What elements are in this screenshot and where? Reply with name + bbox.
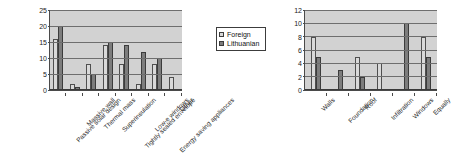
bar-chart-components: 024681012 WallsFoundationRoofInfiltratio… (290, 0, 451, 166)
x-axis-line-left (50, 89, 182, 90)
legend-label-foreign: Foreign (227, 31, 251, 38)
plot-area-right (304, 10, 437, 91)
gridline (305, 76, 437, 77)
x-tick-mark (82, 93, 83, 96)
gridline (305, 63, 437, 64)
legend-label-lithuanian: Lithuanian (227, 40, 259, 47)
legend-item-foreign: Foreign (219, 30, 262, 39)
bar-group (149, 10, 166, 90)
x-axis-labels-left: Passive solar designMassive wallThermal … (49, 93, 182, 166)
x-axis-label: Windows (412, 97, 435, 120)
y-tick-label: 12 (294, 7, 302, 14)
x-tick-mark (65, 93, 66, 96)
legend-swatch-foreign-icon (219, 32, 224, 37)
bar-group (166, 10, 183, 90)
y-tick-label: 0 (298, 87, 302, 94)
bar-group (50, 10, 67, 90)
gridline (50, 26, 182, 27)
x-axis-line-right (305, 89, 437, 90)
x-tick-mark (164, 93, 165, 96)
y-axis-left: 0510152025 (28, 10, 47, 91)
x-tick-mark (414, 93, 415, 96)
x-axis-label: Equally (432, 97, 451, 117)
bar-chart-measures: 0510152025 Passive solar designMassive w… (0, 0, 250, 166)
gridline (305, 50, 437, 51)
x-tick-mark (115, 93, 116, 96)
x-tick-mark (348, 93, 349, 96)
bar-lithuanian (360, 77, 365, 90)
plot-area-left (49, 10, 182, 91)
y-tick-label: 15 (39, 39, 47, 46)
bar-lithuanian (404, 23, 409, 90)
x-tick-mark (98, 93, 99, 96)
gridline (50, 58, 182, 59)
y-tick-label: 20 (39, 23, 47, 30)
x-tick-mark (148, 93, 149, 96)
chart-legend: Foreign Lithuanian (216, 27, 266, 51)
y-tick-label: 10 (294, 20, 302, 27)
bar-lithuanian (338, 70, 343, 90)
gridline (305, 10, 437, 11)
y-tick-label: 8 (298, 33, 302, 40)
bar-lithuanian (316, 57, 321, 90)
bar-group (83, 10, 100, 90)
gridline (50, 42, 182, 43)
legend-item-lithuanian: Lithuanian (219, 39, 262, 48)
x-tick-mark (436, 93, 437, 96)
bar-group (100, 10, 117, 90)
two-chart-figure: 0510152025 Passive solar designMassive w… (0, 0, 451, 166)
bar-lithuanian (124, 45, 129, 90)
x-axis-label: Walls (321, 97, 337, 113)
gridline (50, 74, 182, 75)
x-tick-mark (131, 93, 132, 96)
bar-lithuanian (426, 57, 431, 90)
gridline (50, 10, 182, 11)
bar-lithuanian (91, 74, 96, 90)
x-tick-mark (370, 93, 371, 96)
bar-group (116, 10, 133, 90)
y-tick-label: 5 (43, 71, 47, 78)
x-tick-mark (181, 93, 182, 96)
bar-groups-left (50, 10, 182, 90)
x-axis-label: Infiltration (390, 97, 415, 122)
x-axis-labels-right: WallsFoundationRoofInfiltrationWindowsEq… (304, 93, 437, 166)
y-tick-label: 10 (39, 55, 47, 62)
x-tick-mark (392, 93, 393, 96)
gridline (305, 23, 437, 24)
bar-lithuanian (108, 42, 113, 90)
x-tick-mark (326, 93, 327, 96)
legend-swatch-lithuanian-icon (219, 41, 224, 46)
y-tick-label: 4 (298, 60, 302, 67)
y-tick-label: 2 (298, 73, 302, 80)
gridline (305, 36, 437, 37)
y-tick-label: 0 (43, 87, 47, 94)
y-tick-label: 25 (39, 7, 47, 14)
y-axis-right: 024681012 (290, 10, 302, 91)
bar-group (67, 10, 84, 90)
y-tick-label: 6 (298, 47, 302, 54)
bar-group (133, 10, 150, 90)
